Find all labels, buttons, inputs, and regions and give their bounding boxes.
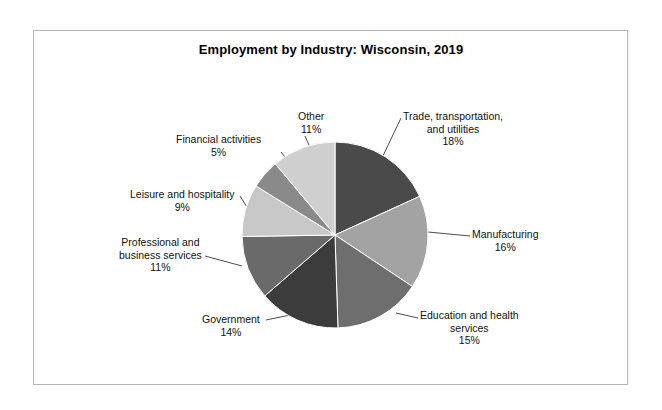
slice-value-financial: 5% (176, 146, 261, 159)
slice-value-education: 15% (420, 334, 519, 347)
slice-label-line2: business services (119, 249, 202, 261)
slice-label-line1: Financial activities (176, 133, 261, 145)
slice-value-government: 14% (202, 326, 260, 339)
slice-label-line2: services (420, 322, 519, 335)
slice-label-line1: Manufacturing (472, 228, 539, 240)
pie-svg (241, 141, 429, 329)
slice-value-manufacturing: 16% (472, 241, 539, 254)
slice-value-leisure: 9% (130, 201, 234, 214)
slice-label-line1: Government (202, 313, 260, 325)
slice-label-government: Government 14% (202, 313, 260, 338)
slice-label-line1: Leisure and hospitality (130, 188, 234, 200)
chart-title: Employment by Industry: Wisconsin, 2019 (0, 42, 662, 57)
slice-label-line1: Education and health (420, 309, 519, 321)
slice-label-line2: and utilities (403, 123, 503, 136)
slice-label-manufacturing: Manufacturing 16% (472, 228, 539, 253)
slice-value-trade: 18% (403, 135, 503, 148)
slice-label-professional: Professional and business services 11% (119, 236, 202, 274)
slice-label-education: Education and health services 15% (420, 309, 519, 347)
slice-label-financial: Financial activities 5% (176, 133, 261, 158)
slice-value-professional: 11% (119, 261, 202, 274)
slice-value-other: 11% (298, 123, 324, 136)
slice-label-other: Other 11% (298, 110, 324, 135)
slice-label-line1: Other (298, 110, 324, 122)
slice-label-line1: Trade, transportation, (403, 110, 503, 122)
slice-label-leisure: Leisure and hospitality 9% (130, 188, 234, 213)
slice-label-trade: Trade, transportation, and utilities 18% (403, 110, 503, 148)
pie-chart (241, 141, 429, 329)
slice-label-line1: Professional and (121, 236, 199, 248)
